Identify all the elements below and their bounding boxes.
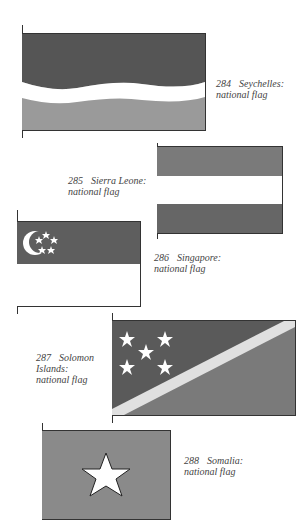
caption-seychelles: 284Seychelles: national flag bbox=[216, 78, 284, 100]
flag-name-cont: Islands: bbox=[36, 363, 94, 374]
flag-desc: national flag bbox=[184, 466, 243, 477]
flag-name: Singapore: bbox=[177, 252, 221, 263]
crescent-stars-icon bbox=[17, 222, 77, 264]
flag-number: 284 bbox=[216, 78, 231, 89]
flag-number: 285 bbox=[68, 175, 83, 186]
caption-sierra-leone: 285Sierra Leone: national flag bbox=[68, 175, 146, 197]
flag-name: Sierra Leone: bbox=[91, 175, 146, 186]
flag-desc: national flag bbox=[154, 263, 221, 274]
flag-name: Seychelles: bbox=[239, 78, 284, 89]
caption-solomon-islands: 287Solomon Islands: national flag bbox=[36, 352, 94, 385]
flag-somalia bbox=[42, 430, 171, 520]
flag-name: Solomon bbox=[59, 352, 94, 363]
flag-number: 286 bbox=[154, 252, 169, 263]
flag-seychelles bbox=[22, 33, 206, 131]
flag-sierra-leone bbox=[157, 146, 283, 234]
flag-number: 287 bbox=[36, 352, 51, 363]
flag-desc: national flag bbox=[36, 374, 94, 385]
caption-somalia: 288Somalia: national flag bbox=[184, 455, 243, 477]
flag-desc: national flag bbox=[216, 89, 284, 100]
flag-number: 288 bbox=[184, 455, 199, 466]
flag-singapore bbox=[17, 221, 141, 307]
flag-solomon-islands bbox=[112, 320, 296, 416]
flag-name: Somalia: bbox=[207, 455, 243, 466]
caption-singapore: 286Singapore: national flag bbox=[154, 252, 221, 274]
flag-desc: national flag bbox=[68, 186, 146, 197]
